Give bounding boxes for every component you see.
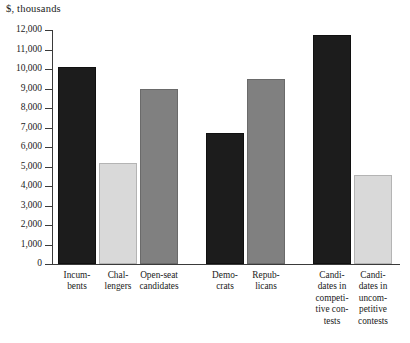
y-axis-tick xyxy=(45,225,52,226)
y-axis-tick-label: 10,000 xyxy=(0,64,42,74)
bar xyxy=(206,133,244,264)
bar xyxy=(313,35,351,264)
y-axis-tick-label: 7,000 xyxy=(0,123,42,133)
y-axis-line xyxy=(52,30,53,265)
bar xyxy=(247,79,285,264)
y-axis-tick xyxy=(45,108,52,109)
y-axis-tick xyxy=(45,69,52,70)
bar xyxy=(354,175,392,264)
x-axis-baseline xyxy=(52,264,400,265)
bar-chart: $, thousands 01,0002,0003,0004,0005,0006… xyxy=(0,0,410,343)
y-axis-tick-label: 3,000 xyxy=(0,201,42,211)
y-axis-tick xyxy=(45,206,52,207)
x-axis-category-label: Repub- licans xyxy=(238,270,294,293)
y-axis-tick xyxy=(45,167,52,168)
y-axis-tick xyxy=(45,89,52,90)
y-axis-tick xyxy=(45,50,52,51)
y-axis-tick xyxy=(45,186,52,187)
y-axis-tick xyxy=(45,30,52,31)
bar xyxy=(140,89,178,265)
y-axis-tick xyxy=(45,245,52,246)
y-axis-tick-label: 12,000 xyxy=(0,25,42,35)
y-axis-tick-label: 8,000 xyxy=(0,103,42,113)
y-axis-tick xyxy=(45,128,52,129)
y-axis-tick xyxy=(45,147,52,148)
y-axis-tick-label: 5,000 xyxy=(0,162,42,172)
x-axis-category-label: Open-seat candidates xyxy=(131,270,187,293)
y-axis-tick-label: 6,000 xyxy=(0,142,42,152)
y-axis-tick xyxy=(45,264,52,265)
y-axis-tick-label: 9,000 xyxy=(0,84,42,94)
bar xyxy=(99,163,137,264)
y-axis-tick-label: 11,000 xyxy=(0,45,42,55)
y-axis-unit-caption: $, thousands xyxy=(6,3,61,14)
y-axis-tick-label: 0 xyxy=(0,259,42,269)
y-axis-tick-label: 4,000 xyxy=(0,181,42,191)
bar xyxy=(58,67,96,264)
x-axis-category-label: Candi- dates in uncom- petitive contests xyxy=(345,270,401,327)
y-axis-tick-label: 1,000 xyxy=(0,240,42,250)
y-axis-tick-label: 2,000 xyxy=(0,220,42,230)
